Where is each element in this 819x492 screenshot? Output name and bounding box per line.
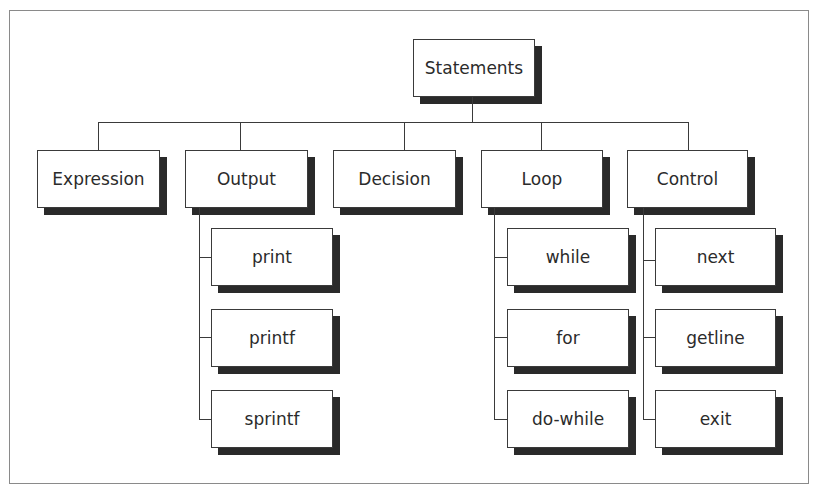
branch-while [494, 257, 507, 258]
node-printf: printf [211, 309, 333, 367]
node-expression: Expression [37, 150, 160, 208]
node-sprintf: sprintf [211, 390, 333, 448]
node-statements: Statements [413, 39, 535, 97]
node-for: for [507, 309, 629, 367]
node-loop: Loop [481, 150, 603, 208]
spine-output [199, 208, 200, 420]
spine-loop [494, 208, 495, 420]
branch-getline [643, 337, 655, 338]
connector-output [240, 122, 241, 150]
node-while: while [507, 228, 629, 286]
spine-control [643, 208, 644, 420]
branch-printf [199, 337, 211, 338]
connector-loop [541, 122, 542, 150]
node-control: Control [627, 150, 748, 208]
connector-bus [98, 122, 689, 123]
node-next: next [655, 228, 776, 286]
node-exit: exit [655, 390, 776, 448]
connector-decision [404, 122, 405, 150]
node-print: print [211, 228, 333, 286]
branch-print [199, 257, 211, 258]
branch-do-while [494, 419, 507, 420]
node-decision: Decision [333, 150, 456, 208]
connector-root [472, 97, 473, 122]
branch-exit [643, 419, 655, 420]
branch-next [643, 260, 655, 261]
connector-control [688, 122, 689, 150]
branch-sprintf [199, 419, 211, 420]
connector-expression [98, 122, 99, 150]
node-output: Output [185, 150, 308, 208]
node-do-while: do-while [507, 390, 629, 448]
branch-for [494, 337, 507, 338]
node-getline: getline [655, 309, 776, 367]
